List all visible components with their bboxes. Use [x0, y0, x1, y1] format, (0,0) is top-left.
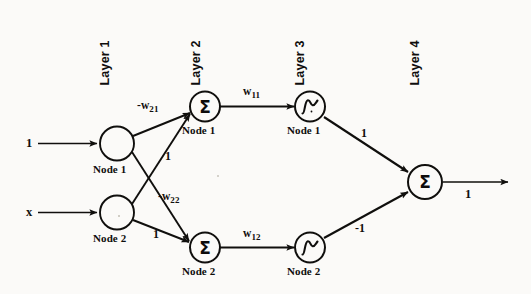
node-caption-l3n2: Node 2 [287, 266, 320, 277]
edge-label-w22: -w22 [158, 191, 180, 203]
sigmoid-icon-l3n2 [303, 241, 318, 254]
node-caption-l3n1: Node 1 [287, 125, 320, 136]
node-caption-l2n2: Node 2 [182, 266, 215, 277]
edge-label-w11: w11 [243, 86, 260, 98]
network-diagram [0, 0, 531, 294]
edge-l1n2-to-l2n2 [133, 220, 189, 242]
node-circle-l3n1 [295, 92, 325, 122]
node-caption-l2n1: Node 1 [182, 125, 215, 136]
edge-label-l1n1-to-l2n2: 1 [165, 150, 171, 162]
figure-canvas: Layer 1 Layer 2 Layer 3 Layer 4 1 x 1 Σ … [0, 0, 531, 294]
node-circle-l1n1 [100, 127, 134, 161]
sigma-icon-l2n1: Σ [199, 97, 211, 117]
edge-label-l3n2-to-l4: -1 [355, 222, 365, 234]
node-caption-l1n2: Node 2 [93, 233, 126, 244]
scan-speck [217, 175, 219, 177]
input-label-x: x [26, 206, 32, 219]
layer-title-2: Layer 2 [190, 40, 203, 85]
sigma-icon-l4n1: Σ [419, 172, 431, 192]
input-label-bias: 1 [26, 137, 32, 150]
edge-l3n2-to-l4 [324, 192, 408, 238]
layer-title-3: Layer 3 [294, 40, 307, 85]
edge-label-w12: w12 [243, 228, 261, 240]
sigma-icon-l2n2: Σ [199, 238, 211, 258]
sigmoid-icon-l3n1 [303, 100, 318, 113]
edge-label-w21-sub: 21 [149, 104, 158, 114]
scan-speck [118, 215, 120, 217]
edge-label-w21: -w21 [137, 100, 159, 112]
node-circle-l1n2 [100, 196, 134, 230]
node-caption-l1n1: Node 1 [93, 164, 126, 175]
edge-label-w12-sub: 12 [251, 232, 260, 242]
node-circle-l3n2 [295, 233, 325, 263]
edge-label-w22-sub: 22 [170, 195, 179, 205]
output-label: 1 [465, 188, 471, 201]
edge-label-l1n2-to-l2n1: 1 [153, 228, 159, 240]
edge-label-w11-sub: 11 [251, 90, 260, 100]
layer-title-1: Layer 1 [99, 40, 112, 85]
edge-label-l3n1-to-l4: 1 [361, 127, 367, 139]
layer-title-4: Layer 4 [409, 40, 422, 85]
